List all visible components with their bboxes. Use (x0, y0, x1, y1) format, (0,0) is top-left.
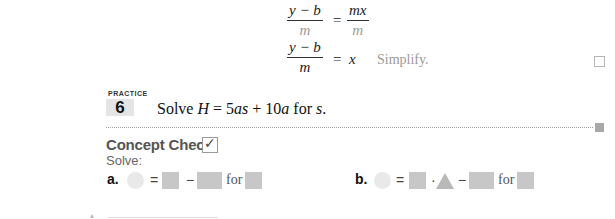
step1-rhs-fraction: mx m (347, 2, 369, 39)
item-b-label: b. (355, 171, 367, 187)
section-divider (106, 127, 593, 128)
item-a-square-shape (162, 172, 179, 189)
footer-tick-icon (90, 214, 94, 218)
item-a-for: for (226, 172, 242, 188)
item-b-triangle-shape (436, 173, 454, 189)
step2-rhs: x (349, 51, 356, 68)
practice-label: PRACTICE (108, 90, 148, 97)
item-a-target-square-shape (245, 172, 262, 189)
step2-lhs-denominator: m (287, 58, 323, 76)
practice-number: 6 (106, 99, 134, 116)
step1-equals: = (333, 12, 341, 29)
step1-lhs-numerator: y − b (287, 2, 323, 21)
step2-lhs-fraction: y − b m (287, 39, 323, 76)
checkmark-icon: ✓ (204, 135, 216, 151)
item-b-square-shape (409, 172, 426, 189)
step2-note: Simplify. (377, 52, 429, 68)
margin-marker-filled (595, 123, 604, 132)
step1-rhs-denominator: m (347, 21, 369, 39)
item-b-dot: · (431, 172, 436, 188)
item-b-target-square-shape (517, 172, 534, 189)
item-b-circle-shape (374, 172, 391, 189)
item-b-for: for (498, 172, 514, 188)
item-b-minus: − (458, 172, 466, 188)
item-a-circle-shape (127, 172, 144, 189)
item-b-equals: = (396, 172, 404, 188)
step1-lhs-fraction: y − b m (287, 2, 323, 39)
concept-check-instruction: Solve: (106, 153, 142, 168)
step2-equals: = (333, 51, 341, 68)
item-a-equals: = (150, 172, 158, 188)
item-b-rectangle-shape (469, 172, 494, 189)
item-a-rectangle-shape (197, 172, 222, 189)
item-a-minus: − (186, 172, 194, 188)
footer-rule (108, 217, 218, 218)
concept-check-checkbox: ✓ (202, 137, 218, 153)
practice-problem: Solve H = 5as + 10a for s. (157, 100, 326, 118)
step1-rhs-numerator: mx (347, 2, 369, 21)
item-a-label: a. (107, 171, 119, 187)
step2-lhs-numerator: y − b (287, 39, 323, 58)
step1-lhs-denominator: m (287, 21, 323, 39)
concept-check-title: Concept Check (106, 136, 213, 153)
margin-marker-outline (594, 56, 605, 67)
